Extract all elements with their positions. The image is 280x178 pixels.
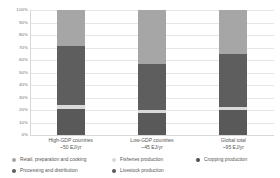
y-axis-tick-label: 20%	[19, 108, 28, 112]
plot-area: 0%10%20%30%40%50%60%70%80%90%100%	[0, 0, 280, 140]
bar-segment[interactable]	[219, 54, 247, 107]
bar-segment[interactable]	[219, 107, 247, 110]
x-axis-category-label: High-GDP countries~50 EJ/yr	[30, 137, 111, 152]
category-energy-value: ~50 EJ/yr	[30, 144, 111, 151]
y-axis-tick-label: 50%	[19, 70, 28, 74]
legend-item[interactable]: Livestock production	[112, 166, 164, 176]
bar-group	[111, 10, 192, 135]
category-name: Low-GDP countries	[111, 137, 192, 144]
bar-segment[interactable]	[57, 109, 85, 135]
stacked-bar-chart: 0%10%20%30%40%50%60%70%80%90%100% High-G…	[0, 0, 280, 178]
legend-label: Cropping production	[204, 158, 247, 163]
legend-label: Retail, preparation and cooking	[20, 158, 86, 163]
y-axis-tick-label: 70%	[19, 45, 28, 49]
bars-layer	[30, 10, 274, 135]
bar-segment[interactable]	[138, 64, 166, 110]
legend-swatch-icon	[112, 169, 116, 173]
y-axis-tick-label: 40%	[19, 83, 28, 87]
bar-segment[interactable]	[57, 105, 85, 109]
legend-swatch-icon	[12, 169, 16, 173]
x-axis-category-label: Global total~95 EJ/yr	[193, 137, 274, 152]
legend-swatch-icon	[196, 158, 200, 162]
bar-segment[interactable]	[57, 46, 85, 105]
bar-segment[interactable]	[57, 10, 85, 46]
category-energy-value: ~45 EJ/yr	[111, 144, 192, 151]
bar-group	[30, 10, 111, 135]
legend-item[interactable]: Cropping production	[196, 155, 247, 165]
y-axis-tick-label: 0%	[21, 133, 28, 137]
y-axis-tick-label: 80%	[19, 33, 28, 37]
y-axis: 0%10%20%30%40%50%60%70%80%90%100%	[0, 0, 30, 140]
bar-segment[interactable]	[219, 10, 247, 54]
stacked-bar[interactable]	[138, 10, 166, 135]
stacked-bar[interactable]	[219, 10, 247, 135]
bar-segment[interactable]	[138, 110, 166, 113]
stacked-bar[interactable]	[57, 10, 85, 135]
bar-segment[interactable]	[138, 113, 166, 135]
legend-column: Fisheries productionLivestock production	[112, 155, 164, 177]
chart-legend: Retail, preparation and cookingProcessin…	[0, 155, 280, 178]
category-energy-value: ~95 EJ/yr	[193, 144, 274, 151]
legend-swatch-icon	[112, 158, 116, 162]
bar-segment[interactable]	[138, 10, 166, 64]
bar-group	[193, 10, 274, 135]
x-axis-category-labels: High-GDP countries~50 EJ/yrLow-GDP count…	[30, 137, 274, 157]
gridline	[30, 135, 274, 136]
x-axis-category-label: Low-GDP countries~45 EJ/yr	[111, 137, 192, 152]
legend-column: Retail, preparation and cookingProcessin…	[12, 155, 86, 177]
bar-segment[interactable]	[219, 110, 247, 135]
y-axis-tick-label: 10%	[19, 120, 28, 124]
legend-label: Fisheries production	[120, 158, 163, 163]
legend-item[interactable]: Fisheries production	[112, 155, 164, 165]
legend-column: Cropping production	[196, 155, 247, 166]
y-axis-tick-label: 60%	[19, 58, 28, 62]
legend-label: Livestock production	[120, 169, 164, 174]
y-axis-tick-label: 30%	[19, 95, 28, 99]
y-axis-tick-label: 90%	[19, 20, 28, 24]
legend-item[interactable]: Processing and distribution	[12, 166, 86, 176]
category-name: Global total	[193, 137, 274, 144]
legend-label: Processing and distribution	[20, 169, 78, 174]
legend-item[interactable]: Retail, preparation and cooking	[12, 155, 86, 165]
legend-swatch-icon	[12, 158, 16, 162]
y-axis-tick-label: 100%	[16, 8, 28, 12]
category-name: High-GDP countries	[30, 137, 111, 144]
